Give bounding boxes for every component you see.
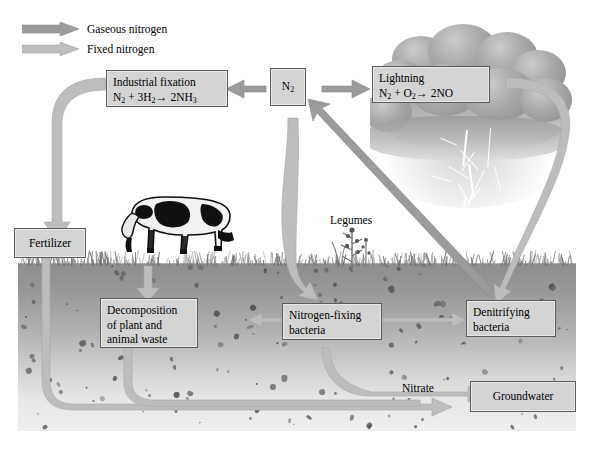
- box-decomposition[interactable]: Decomposition of plant and animal waste: [100, 298, 198, 348]
- decomposition-line3: animal waste: [107, 332, 191, 347]
- lightning-formula: N2 + O2→ 2NO: [379, 86, 483, 102]
- groundwater-label: Groundwater: [493, 389, 554, 404]
- nfix-line2: bacteria: [289, 323, 375, 338]
- label-legumes: Legumes: [330, 214, 372, 226]
- fertilizer-label: Fertilizer: [29, 236, 71, 251]
- arrow-industrial-to-fertilizer: [44, 78, 106, 242]
- arrow-surface-to-decomposition: [137, 266, 159, 302]
- denitrifying-line2: bacteria: [473, 320, 549, 335]
- industrial-fixation-title: Industrial fixation: [113, 75, 221, 90]
- decomposition-line1: Decomposition: [107, 303, 191, 318]
- gaseous-arrow-icon: [22, 22, 80, 36]
- label-nitrate: Nitrate: [402, 382, 434, 394]
- n2-label: N2: [282, 79, 294, 95]
- box-fertilizer[interactable]: Fertilizer: [14, 228, 86, 258]
- box-denitrifying-bacteria[interactable]: Denitrifying bacteria: [466, 300, 556, 337]
- lightning-title: Lightning: [379, 71, 483, 86]
- arrow-decomposition-to-groundwater: [124, 348, 420, 406]
- arrow-lightning-to-soil: [494, 78, 570, 304]
- industrial-fixation-formula: N2 + 3H2→ 2NH3: [113, 90, 221, 106]
- legend-label-gaseous: Gaseous nitrogen: [87, 23, 167, 35]
- nitrogen-cycle-diagram: Gaseous nitrogen Fixed nitrogen Industri…: [0, 0, 594, 451]
- denitrifying-line1: Denitrifying: [473, 305, 549, 320]
- arrow-n2-to-soil: [282, 118, 318, 300]
- arrow-n2-to-industrial: [226, 80, 266, 98]
- legend-label-fixed: Fixed nitrogen: [87, 43, 154, 55]
- box-nitrogen-fixing-bacteria[interactable]: Nitrogen-fixing bacteria: [282, 303, 382, 340]
- box-lightning[interactable]: Lightning N2 + O2→ 2NO: [372, 66, 490, 103]
- arrow-n2-to-lightning: [322, 80, 370, 98]
- legend-item-gaseous: Gaseous nitrogen: [22, 20, 167, 37]
- legend: Gaseous nitrogen Fixed nitrogen: [22, 20, 167, 60]
- arrow-nfix-to-denitrifying: [382, 313, 466, 327]
- arrow-denitrifying-to-n2: [308, 99, 492, 296]
- nfix-line1: Nitrogen-fixing: [289, 308, 375, 323]
- box-industrial-fixation[interactable]: Industrial fixation N2 + 3H2→ 2NH3: [106, 70, 228, 107]
- fixed-arrow-icon: [22, 42, 80, 56]
- box-groundwater[interactable]: Groundwater: [470, 381, 576, 412]
- legend-item-fixed: Fixed nitrogen: [22, 40, 167, 57]
- decomposition-line2: of plant and: [107, 318, 191, 333]
- box-n2[interactable]: N2: [270, 68, 306, 106]
- arrow-nfix-to-decomposition: [248, 313, 282, 327]
